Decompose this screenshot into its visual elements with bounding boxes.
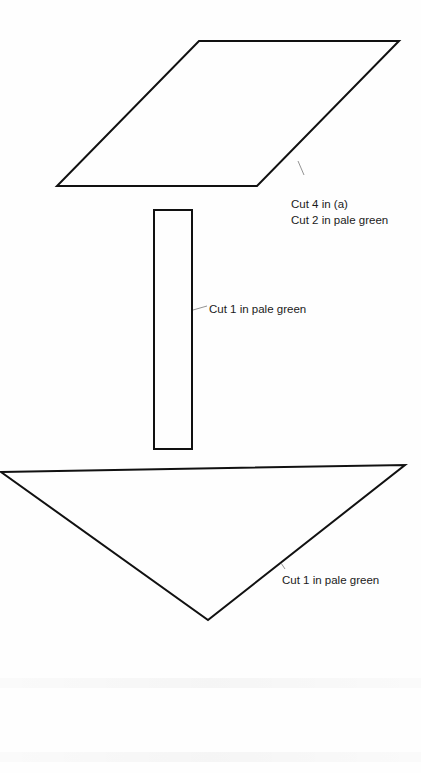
strip-piece xyxy=(154,210,192,449)
parallelogram-piece xyxy=(57,41,399,186)
triangle-cut-label: Cut 1 in pale green xyxy=(282,572,379,588)
parallelogram-cut-label: Cut 4 in (a) Cut 2 in pale green xyxy=(291,196,388,228)
strip-leader-line xyxy=(193,306,207,310)
pattern-page: Cut 4 in (a) Cut 2 in pale green Cut 1 i… xyxy=(0,0,421,773)
triangle-leader-line xyxy=(281,563,285,569)
pattern-pieces-canvas xyxy=(0,0,421,773)
parallelogram-cut-line-1: Cut 4 in (a) xyxy=(291,196,388,212)
paper-bleed-through xyxy=(0,752,421,762)
triangle-piece xyxy=(1,465,405,620)
paper-bleed-through xyxy=(0,678,421,688)
parallelogram-cut-line-2: Cut 2 in pale green xyxy=(291,212,388,228)
strip-cut-line-1: Cut 1 in pale green xyxy=(209,301,306,317)
triangle-cut-line-1: Cut 1 in pale green xyxy=(282,572,379,588)
parallelogram-leader-line xyxy=(298,161,304,175)
strip-cut-label: Cut 1 in pale green xyxy=(209,301,306,317)
